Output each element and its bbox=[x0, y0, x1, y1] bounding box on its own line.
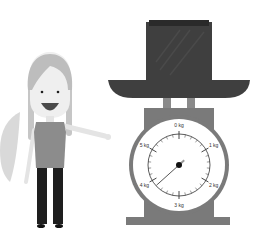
leg-right bbox=[53, 168, 63, 224]
leg-left bbox=[37, 168, 47, 224]
hat-crown-top bbox=[149, 20, 209, 26]
dial-label-3: 3 kg bbox=[174, 202, 184, 208]
dial-hub bbox=[176, 162, 182, 168]
eye-left bbox=[41, 91, 44, 94]
dial-label-5: 5 kg bbox=[140, 142, 150, 148]
shirt bbox=[34, 122, 66, 168]
hat bbox=[108, 20, 250, 98]
kitchen-scale: 0 kg 1 kg 2 kg 3 kg 4 kg 5 kg bbox=[126, 95, 230, 225]
illustration: 0 kg 1 kg 2 kg 3 kg 4 kg 5 kg bbox=[0, 0, 265, 247]
hat-brim bbox=[108, 80, 250, 98]
dial-label-1: 1 kg bbox=[209, 142, 219, 148]
shoe-left bbox=[37, 224, 45, 228]
neck bbox=[46, 116, 54, 122]
leaf-shape bbox=[0, 112, 20, 182]
dial-label-0: 0 kg bbox=[174, 122, 184, 128]
dial-label-2: 2 kg bbox=[209, 182, 219, 188]
girl-figure bbox=[26, 52, 111, 228]
scale-base bbox=[126, 217, 230, 225]
dial-label-4: 4 kg bbox=[140, 182, 150, 188]
eye-right bbox=[57, 91, 60, 94]
hand-pointing bbox=[105, 134, 111, 140]
shoe-right bbox=[55, 224, 63, 228]
